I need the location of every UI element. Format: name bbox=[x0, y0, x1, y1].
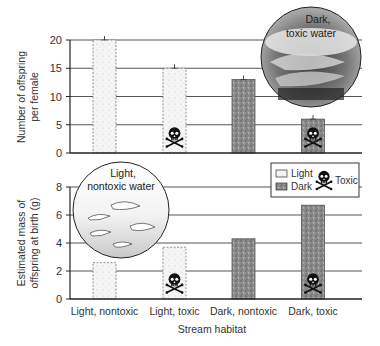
light-inset-label-line1: Light, bbox=[110, 167, 136, 179]
x-category-label: Light, toxic bbox=[149, 305, 199, 317]
legend-label-light: Light bbox=[291, 168, 313, 179]
light-inset-label-line2: nontoxic water bbox=[87, 180, 155, 192]
top-ylabel-line2: per female bbox=[28, 72, 40, 122]
top-tick-label: 10 bbox=[50, 91, 62, 103]
top-tick-label: 20 bbox=[50, 34, 62, 46]
legend: Light Dark Toxic bbox=[271, 163, 359, 197]
x-category-label: Light, nontoxic bbox=[71, 305, 139, 317]
top-bar-light-nontoxic bbox=[93, 40, 116, 153]
dark-toxic-water-inset: Dark, toxic water bbox=[261, 7, 361, 107]
x-axis-label: Stream habitat bbox=[178, 323, 246, 335]
top-y-ticks: 05101520 bbox=[50, 34, 70, 159]
legend-label-dark: Dark bbox=[291, 181, 313, 192]
top-tick-label: 5 bbox=[56, 119, 62, 131]
top-tick-label: 15 bbox=[50, 62, 62, 74]
x-category-labels: Light, nontoxicLight, toxicDark, nontoxi… bbox=[71, 305, 338, 317]
dark-inset-label-line2: toxic water bbox=[286, 27, 337, 39]
bottom-tick-label: 6 bbox=[56, 209, 62, 221]
x-category-label: Dark, toxic bbox=[288, 305, 338, 317]
light-nontoxic-water-inset: Light, nontoxic water bbox=[73, 162, 169, 258]
bottom-tick-label: 2 bbox=[56, 265, 62, 277]
bottom-ylabel-line2: offspring at birth (g) bbox=[28, 198, 40, 289]
bottom-tick-label: 8 bbox=[56, 181, 62, 193]
legend-swatch-light bbox=[276, 170, 287, 177]
x-category-label: Dark, nontoxic bbox=[210, 305, 277, 317]
legend-swatch-dark bbox=[276, 183, 287, 190]
bottom-tick-label: 0 bbox=[56, 293, 62, 305]
legend-label-toxic: Toxic bbox=[335, 175, 358, 186]
bottom-y-ticks: 02468 bbox=[56, 181, 70, 305]
top-bar-dark-nontoxic bbox=[232, 80, 255, 153]
chart-canvas: 05101520 Number of offspring per female … bbox=[0, 0, 380, 346]
top-tick-label: 0 bbox=[56, 147, 62, 159]
dark-inset-label-line1: Dark, bbox=[305, 13, 330, 25]
top-ylabel-line1: Number of offspring bbox=[15, 51, 27, 143]
bottom-tick-label: 4 bbox=[56, 237, 62, 249]
dark-streambed bbox=[278, 88, 344, 100]
bottom-bar-light-toxic bbox=[163, 247, 186, 299]
bottom-bar-dark-nontoxic bbox=[232, 239, 255, 299]
bottom-bar-light-nontoxic bbox=[93, 263, 116, 299]
bottom-ylabel-line1: Estimated mass of bbox=[15, 200, 27, 286]
